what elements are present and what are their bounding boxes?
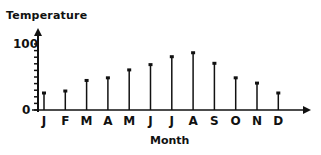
x-tick-label: A [101, 114, 115, 128]
x-tick-label: J [144, 114, 158, 128]
x-tick-label: A [186, 114, 200, 128]
stem-marker [276, 92, 280, 95]
x-axis-title: Month [150, 134, 189, 147]
stem-marker [127, 68, 131, 71]
x-tick-label: J [37, 114, 51, 128]
x-tick-label: J [165, 114, 179, 128]
stem-marker [255, 82, 259, 85]
stem-marker [170, 55, 174, 58]
x-tick-label: M [122, 114, 136, 128]
stem-marker [191, 51, 195, 54]
plot-area [0, 0, 321, 155]
stem-chart: Temperature 100 0 JFMAMJJASOND Month [0, 0, 321, 155]
x-tick-label: S [207, 114, 221, 128]
stem-marker [63, 90, 67, 93]
stem-marker [85, 79, 89, 82]
x-axis-arrow-icon [303, 106, 311, 114]
x-tick-label: D [271, 114, 285, 128]
x-tick-label: F [58, 114, 72, 128]
stem-marker [42, 92, 46, 95]
x-tick-label: M [80, 114, 94, 128]
stem-marker [149, 63, 153, 66]
stem-marker [212, 62, 216, 65]
y-axis-arrow-icon [34, 28, 42, 36]
stem-marker [106, 76, 110, 79]
stem-marker [234, 76, 238, 79]
x-tick-label: O [229, 114, 243, 128]
x-tick-label: N [250, 114, 264, 128]
